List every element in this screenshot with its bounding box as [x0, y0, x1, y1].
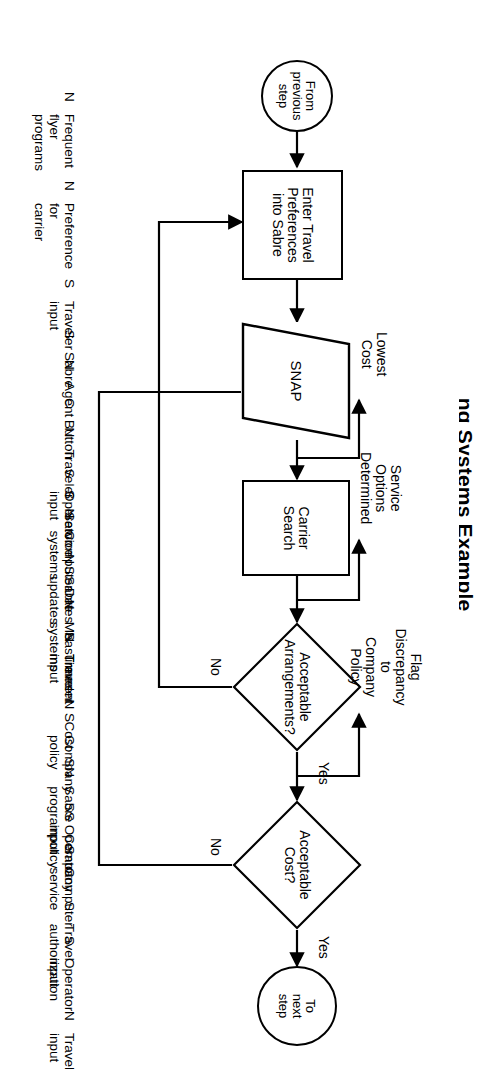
enter-travel-preferences-label: Enter Travel Preferences into Sabre	[270, 187, 315, 262]
snap-parallelogram: SNAP	[241, 322, 351, 440]
carrier-search-label: Carrier Search	[281, 506, 311, 550]
annotation-item: C Button	[62, 398, 77, 459]
enter-travel-preferences-process: Enter Travel Preferences into Sabre	[242, 170, 343, 280]
acceptable-arrangements-label: Acceptable Arrangements?	[232, 622, 362, 752]
annotation-text: Travel authorization	[47, 924, 77, 1001]
carrier-search-process: Carrier Search	[242, 480, 350, 576]
edge-label-arrangements-no: No	[208, 658, 223, 676]
annotation-code: S	[62, 812, 77, 834]
acceptable-cost-label: Acceptable Cost?	[232, 800, 362, 930]
annotation-item: S Service	[62, 490, 77, 557]
acceptable-cost-decision: Acceptable Cost?	[232, 800, 362, 930]
annotation-text: Dates	[62, 588, 77, 623]
edge-label-lowest-cost: Lowest Cost	[359, 332, 389, 376]
edge-label-arrangements-yes: Yes	[316, 762, 331, 785]
annotation-text: Traveler input	[47, 654, 77, 703]
start-terminator-label: From previous step	[277, 71, 318, 120]
annotation-item: S Company policy	[47, 713, 77, 793]
annotation-code: S	[62, 713, 77, 735]
annotation-code: S	[62, 469, 77, 491]
annotation-item: N Travel input	[47, 1011, 77, 1070]
edge-label-cost-no: No	[208, 838, 223, 856]
annotation-text: Service	[62, 512, 77, 557]
acceptable-arrangements-decision: Acceptable Arrangements?	[232, 622, 362, 752]
annotation-group-acceptable-cost: S Company policy S Travel authorization …	[17, 812, 107, 1002]
annotation-code: N	[62, 1011, 77, 1033]
end-terminator-label: To next step	[277, 994, 318, 1019]
annotation-code: N	[62, 181, 77, 203]
snap-label: SNAP	[288, 361, 304, 402]
annotation-code: S	[62, 330, 77, 352]
annotation-item: N Preference for carrier	[32, 181, 77, 269]
annotation-code: S	[62, 490, 77, 512]
annotation-item: S Travel authorization	[47, 902, 77, 1001]
annotation-item: S Company policy	[47, 812, 77, 892]
annotation-code: S	[62, 632, 77, 654]
annotation-item: S Dates	[62, 566, 77, 623]
annotation-text: Preference for carrier	[32, 203, 77, 269]
annotation-item: S Traveler input	[47, 632, 77, 703]
annotation-item: N Frequent flyer programs	[32, 92, 77, 171]
annotation-group-acceptable-arrangements: S Traveler input S Company policy S Oper…	[17, 632, 107, 832]
annotation-item: S Sabre	[62, 330, 77, 388]
edge-label-cost-yes: Yes	[316, 936, 331, 959]
annotation-code: S	[62, 279, 77, 301]
annotation-text: Company policy	[47, 735, 77, 793]
start-terminator: From previous step	[261, 60, 333, 132]
end-terminator: To next step	[257, 966, 337, 1046]
edge-label-service-options: Service Options Determined	[358, 452, 403, 524]
annotation-code: S	[62, 566, 77, 588]
annotation-text: Sabre	[62, 352, 77, 388]
annotation-code: N	[62, 92, 77, 114]
annotation-code: C	[62, 398, 77, 420]
annotation-text: Company policy	[47, 834, 77, 892]
annotation-text: Travel input	[47, 1033, 77, 1070]
annotation-code: S	[62, 902, 77, 924]
annotation-text: Frequent flyer programs	[32, 114, 77, 171]
annotation-text: Button	[62, 420, 77, 459]
